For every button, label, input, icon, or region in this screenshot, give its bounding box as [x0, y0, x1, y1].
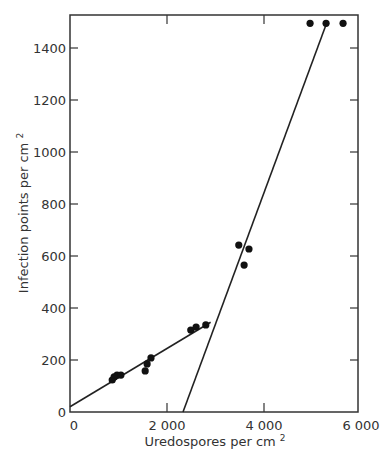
y-tick-label: 1000 [33, 145, 66, 160]
data-point [117, 371, 124, 378]
y-tick-label: 400 [41, 301, 66, 316]
data-point [339, 20, 346, 27]
fit-line [183, 22, 327, 412]
data-point [147, 354, 154, 361]
data-point [241, 262, 248, 269]
y-tick-label: 200 [41, 353, 66, 368]
x-tick-label: 0 [70, 418, 78, 433]
fit-lines [70, 22, 327, 412]
data-point [144, 360, 151, 367]
x-axis-ticks: 02 0004 0006 000 [70, 15, 380, 433]
plot-border [70, 15, 358, 412]
y-axis-title: Infection points per cm 2 [15, 133, 31, 293]
y-axis-ticks: 0200400600800100012001400 [33, 41, 358, 420]
y-tick-label: 1400 [33, 41, 66, 56]
scatter-chart: 02 0004 0006 000 02004006008001000120014… [0, 0, 392, 460]
data-points [109, 20, 347, 384]
x-tick-label: 4 000 [245, 418, 282, 433]
y-tick-label: 0 [58, 405, 66, 420]
y-tick-label: 1200 [33, 93, 66, 108]
x-tick-label: 2 000 [148, 418, 185, 433]
data-point [322, 20, 329, 27]
x-tick-label: 6 000 [342, 418, 379, 433]
y-tick-label: 800 [41, 197, 66, 212]
data-point [202, 321, 209, 328]
plot-frame [70, 15, 358, 412]
data-point [245, 245, 252, 252]
data-point [193, 323, 200, 330]
data-point [142, 367, 149, 374]
data-point [235, 241, 242, 248]
y-tick-label: 600 [41, 249, 66, 264]
x-axis-title: Uredospores per cm 2 [144, 433, 285, 449]
data-point [306, 20, 313, 27]
